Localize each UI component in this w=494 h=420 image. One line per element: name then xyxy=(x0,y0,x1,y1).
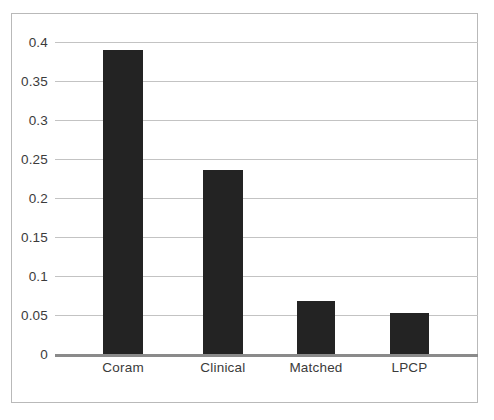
y-tick-label: 0.25 xyxy=(21,152,48,167)
bar-lpcp[interactable] xyxy=(390,313,429,354)
y-axis-tick-labels: 0.4 0.35 0.3 0.25 0.2 0.15 0.1 0.05 0 xyxy=(0,42,48,354)
x-axis-tick-labels: Coram Clinical Matched LPCP xyxy=(55,360,478,384)
bar-clinical[interactable] xyxy=(203,170,243,354)
y-tick-label: 0 xyxy=(40,347,48,362)
x-tick-label-coram: Coram xyxy=(102,360,144,375)
y-tick-label: 0.05 xyxy=(21,308,48,323)
y-tick-label: 0.1 xyxy=(29,269,48,284)
y-tick-label: 0.4 xyxy=(29,35,48,50)
x-axis-baseline xyxy=(55,354,478,357)
x-tick-label-clinical: Clinical xyxy=(200,360,245,375)
bar-coram[interactable] xyxy=(103,50,143,354)
bar-matched[interactable] xyxy=(297,301,335,354)
y-tick-label: 0.35 xyxy=(21,74,48,89)
y-tick-label: 0.2 xyxy=(29,191,48,206)
x-tick-label-matched: Matched xyxy=(289,360,342,375)
y-tick-label: 0.15 xyxy=(21,230,48,245)
bar-series xyxy=(55,42,478,354)
x-tick-label-lpcp: LPCP xyxy=(391,360,427,375)
y-tick-label: 0.3 xyxy=(29,113,48,128)
bar-chart: 0.4 0.35 0.3 0.25 0.2 0.15 0.1 0.05 0 Co… xyxy=(0,0,494,420)
